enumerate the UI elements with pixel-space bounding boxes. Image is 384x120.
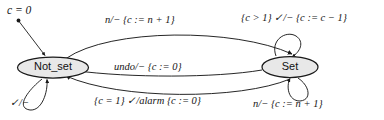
transition-label-top: n/− {c := n + 1} — [105, 15, 175, 26]
annotation-leader-line — [20, 22, 46, 56]
transition-arc-bottom-alarm — [66, 76, 290, 94]
self-loop-set-top — [275, 34, 301, 57]
annotation-initial-counter: c = 0 — [7, 5, 31, 17]
transition-label-not-set-self-loop: ✓/− — [10, 98, 29, 109]
transition-label-undo: undo/− {c := 0} — [114, 62, 182, 73]
transition-arc-top — [66, 35, 292, 58]
state-label-not-set: Not_set — [18, 61, 88, 72]
transition-label-set-self-loop-bottom: n/− {c := n + 1} — [253, 99, 323, 110]
transition-label-set-self-loop-top: {c > 1} ✓/− {c := c − 1} — [241, 13, 347, 24]
state-label-set: Set — [262, 61, 318, 72]
transition-label-alarm: {c = 1} ✓/alarm {c := 0} — [94, 96, 201, 107]
state-machine-diagram: c = 0 Not_set Set n/− {c := n + 1} {c > … — [0, 0, 384, 120]
